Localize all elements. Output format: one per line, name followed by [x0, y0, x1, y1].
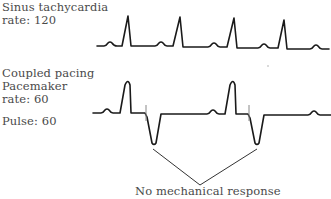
pointer-line-left [153, 149, 200, 185]
pointer-line-right [200, 149, 257, 185]
no-mechanical-response-label: No mechanical response [135, 185, 281, 198]
coupled-pacing-trace [93, 82, 331, 145]
stray-dot [267, 65, 269, 67]
ecg-traces [0, 0, 331, 199]
sinus-tachycardia-trace [97, 16, 329, 49]
